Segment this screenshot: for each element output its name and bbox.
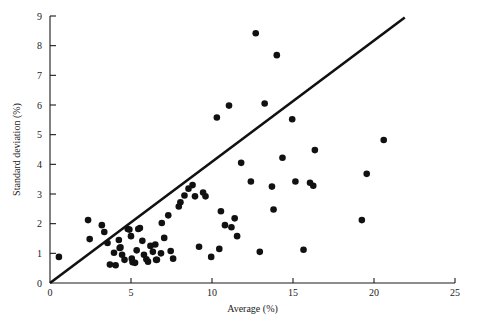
data-point — [380, 137, 387, 144]
data-point — [56, 254, 63, 261]
reference-line — [50, 17, 405, 283]
data-point — [137, 225, 144, 232]
data-point — [165, 212, 172, 219]
y-tick-label: 9 — [37, 11, 42, 22]
data-point — [158, 220, 165, 227]
data-point — [181, 192, 188, 199]
y-tick-label: 5 — [37, 129, 42, 140]
data-point — [196, 244, 203, 251]
data-point — [363, 171, 370, 178]
y-tick-label: 3 — [37, 189, 42, 200]
data-point — [154, 257, 161, 264]
data-point — [139, 238, 146, 245]
data-point — [150, 249, 157, 256]
x-tick-label: 10 — [207, 287, 217, 298]
data-point — [222, 222, 229, 229]
x-tick-label: 20 — [369, 287, 379, 298]
data-point — [202, 193, 209, 200]
x-tick-label: 15 — [288, 287, 298, 298]
data-point — [359, 217, 366, 224]
y-tick-label: 2 — [37, 218, 42, 229]
data-points — [56, 30, 387, 269]
data-point — [158, 250, 165, 257]
data-point — [228, 224, 235, 231]
data-point — [218, 208, 225, 215]
data-point — [310, 182, 317, 189]
data-point — [248, 178, 255, 185]
data-point — [121, 257, 128, 264]
x-tick-label: 0 — [48, 287, 53, 298]
data-point — [252, 30, 259, 37]
data-point — [279, 155, 286, 162]
data-point — [133, 247, 140, 254]
data-point — [177, 199, 184, 206]
data-point — [216, 246, 223, 253]
data-point — [270, 206, 277, 213]
data-point — [107, 261, 114, 268]
data-point — [292, 178, 299, 185]
data-point — [226, 102, 233, 109]
data-point — [128, 233, 135, 240]
data-point — [145, 258, 152, 265]
y-tick-label: 6 — [37, 100, 42, 111]
x-axis-title: Average (%) — [227, 303, 278, 315]
data-point — [192, 193, 199, 200]
y-tick-label: 1 — [37, 248, 42, 259]
data-point — [167, 248, 174, 255]
y-tick-label: 7 — [37, 70, 42, 81]
y-tick-label: 8 — [37, 40, 42, 51]
data-point — [111, 249, 118, 256]
data-point — [238, 160, 245, 167]
data-point — [85, 217, 92, 224]
data-point — [112, 262, 119, 269]
data-point — [189, 182, 196, 189]
x-tick-label: 25 — [450, 287, 460, 298]
data-point — [261, 100, 268, 107]
data-point — [256, 249, 263, 256]
data-point — [161, 235, 168, 242]
x-tick-label: 5 — [129, 287, 134, 298]
data-point — [214, 114, 221, 121]
tick-labels: 05101520250123456789 — [37, 11, 460, 299]
data-point — [312, 147, 319, 154]
data-point — [300, 246, 307, 253]
data-point — [289, 116, 296, 123]
scatter-chart: 05101520250123456789 Average (%) Standar… — [0, 0, 477, 327]
y-tick-label: 4 — [37, 159, 42, 170]
data-point — [208, 254, 215, 261]
y-axis-title: Standard deviation (%) — [11, 103, 23, 196]
plot-area: 05101520250123456789 Average (%) Standar… — [0, 0, 477, 327]
data-point — [152, 241, 159, 248]
data-point — [117, 244, 124, 251]
identity-proportional-line — [50, 17, 405, 283]
data-point — [234, 233, 241, 240]
data-point — [274, 52, 281, 59]
data-point — [170, 255, 177, 262]
data-point — [126, 226, 133, 233]
y-tick-label: 0 — [37, 278, 42, 289]
data-point — [99, 222, 106, 229]
data-point — [231, 215, 238, 222]
data-point — [132, 260, 139, 267]
data-point — [116, 237, 123, 244]
data-point — [86, 236, 93, 243]
data-point — [269, 183, 276, 190]
data-point — [101, 229, 108, 236]
data-point — [104, 240, 111, 247]
